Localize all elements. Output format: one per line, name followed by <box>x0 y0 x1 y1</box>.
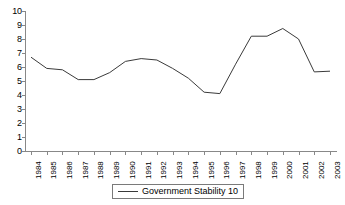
x-tick-label: 1995 <box>208 161 216 179</box>
y-tick-label: 6 <box>0 63 22 72</box>
line-chart: 012345678910 198419851986198719881989199… <box>0 0 345 205</box>
y-tick-mark <box>22 39 25 40</box>
x-tick-mark <box>141 152 142 155</box>
legend-line-swatch <box>118 191 138 192</box>
x-tick-label: 2000 <box>286 161 294 179</box>
x-tick-mark <box>31 152 32 155</box>
x-tick-label: 1989 <box>113 161 121 179</box>
x-tick-label: 1984 <box>35 161 43 179</box>
y-tick-label: 0 <box>0 147 22 156</box>
x-tick-label: 1997 <box>239 161 247 179</box>
x-tick-mark <box>78 152 79 155</box>
x-tick-label: 1999 <box>271 161 279 179</box>
y-tick-label: 5 <box>0 77 22 86</box>
y-tick-label: 2 <box>0 119 22 128</box>
y-tick-mark <box>22 67 25 68</box>
x-tick-mark <box>188 152 189 155</box>
x-tick-label: 1986 <box>66 161 74 179</box>
y-tick-mark <box>22 151 25 152</box>
y-tick-mark <box>22 123 25 124</box>
x-tick-label: 1991 <box>145 161 153 179</box>
x-tick-mark <box>220 152 221 155</box>
y-tick-label: 8 <box>0 35 22 44</box>
x-tick-label: 2003 <box>334 161 342 179</box>
y-tick-label: 4 <box>0 91 22 100</box>
x-tick-label: 1998 <box>255 161 263 179</box>
x-tick-label: 1990 <box>129 161 137 179</box>
x-tick-label: 1992 <box>160 161 168 179</box>
x-tick-mark <box>236 152 237 155</box>
x-tick-mark <box>204 152 205 155</box>
x-tick-mark <box>125 152 126 155</box>
y-axis-line <box>25 11 26 152</box>
x-tick-mark <box>251 152 252 155</box>
x-tick-mark <box>173 152 174 155</box>
x-tick-mark <box>267 152 268 155</box>
data-series-line <box>31 29 330 94</box>
y-tick-mark <box>22 95 25 96</box>
x-tick-mark <box>94 152 95 155</box>
x-tick-mark <box>157 152 158 155</box>
x-tick-label: 1996 <box>223 161 231 179</box>
x-tick-label: 2001 <box>302 161 310 179</box>
x-tick-mark <box>330 152 331 155</box>
y-tick-mark <box>22 137 25 138</box>
y-tick-mark <box>22 109 25 110</box>
x-tick-mark <box>47 152 48 155</box>
x-tick-label: 1994 <box>192 161 200 179</box>
x-tick-mark <box>110 152 111 155</box>
y-tick-label: 1 <box>0 133 22 142</box>
x-tick-mark <box>314 152 315 155</box>
y-axis: 012345678910 <box>0 0 22 160</box>
y-tick-label: 10 <box>0 7 22 16</box>
x-tick-label: 2002 <box>318 161 326 179</box>
y-tick-label: 3 <box>0 105 22 114</box>
x-tick-label: 1985 <box>50 161 58 179</box>
y-tick-label: 9 <box>0 21 22 30</box>
x-tick-label: 1988 <box>97 161 105 179</box>
legend: Government Stability 10 <box>112 184 244 199</box>
x-tick-label: 1987 <box>82 161 90 179</box>
y-tick-label: 7 <box>0 49 22 58</box>
legend-label: Government Stability 10 <box>142 187 238 196</box>
x-tick-mark <box>299 152 300 155</box>
x-tick-mark <box>283 152 284 155</box>
y-tick-mark <box>22 81 25 82</box>
x-tick-mark <box>62 152 63 155</box>
x-tick-label: 1993 <box>176 161 184 179</box>
y-tick-mark <box>22 11 25 12</box>
x-axis-line <box>25 151 337 152</box>
y-tick-mark <box>22 53 25 54</box>
y-tick-mark <box>22 25 25 26</box>
